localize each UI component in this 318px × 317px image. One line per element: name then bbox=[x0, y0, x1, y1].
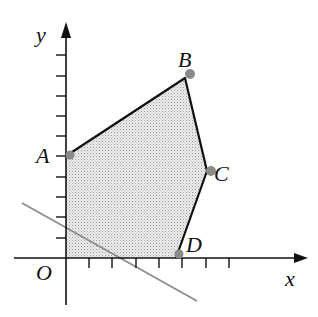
y-axis-arrow-icon bbox=[61, 22, 71, 38]
feasible-region-diagram: y x O A B C D bbox=[0, 0, 318, 317]
vertex-label-b: B bbox=[178, 47, 191, 72]
y-ticks bbox=[56, 55, 66, 238]
vertex-label-d: D bbox=[185, 232, 202, 257]
vertex-label-a: A bbox=[34, 143, 50, 168]
vertex-dot-d bbox=[175, 250, 184, 259]
vertex-dot-a bbox=[66, 151, 75, 160]
y-axis-label: y bbox=[34, 22, 46, 47]
vertex-label-c: C bbox=[214, 161, 229, 186]
x-ticks bbox=[89, 258, 229, 268]
x-axis-label: x bbox=[284, 266, 295, 291]
origin-label: O bbox=[36, 260, 52, 285]
x-axis-arrow-icon bbox=[294, 253, 308, 263]
